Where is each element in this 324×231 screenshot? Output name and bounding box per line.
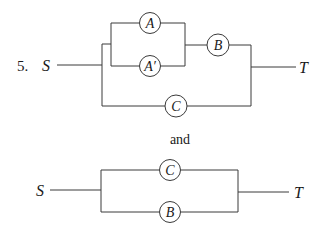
circuit-1-component-a-prime: A′ <box>140 56 161 77</box>
circuit-2-source-label: S <box>36 182 44 199</box>
circuit-2-component-c: C <box>160 160 181 181</box>
circuit-diagram: A A′ B C C B 5. S T and S T <box>0 0 324 231</box>
circuit-2-target-label: T <box>294 184 304 201</box>
connector-text: and <box>170 132 190 147</box>
component-b-label: B <box>214 38 223 53</box>
circuit-1-target-label: T <box>299 59 309 76</box>
component-c-label: C <box>165 163 175 178</box>
problem-number: 5. <box>17 58 28 74</box>
component-a-prime-label: A′ <box>143 59 157 74</box>
circuit-1-component-c: C <box>165 95 187 117</box>
component-c-label: C <box>171 99 181 114</box>
component-b-label: B <box>166 205 175 220</box>
circuit-1-source-label: S <box>42 57 50 74</box>
circuit-1-wires <box>57 23 296 106</box>
component-a-label: A <box>145 16 155 31</box>
circuit-2-component-b: B <box>160 202 181 223</box>
circuit-1-component-a: A <box>140 13 161 34</box>
circuit-1-component-b: B <box>207 34 229 56</box>
